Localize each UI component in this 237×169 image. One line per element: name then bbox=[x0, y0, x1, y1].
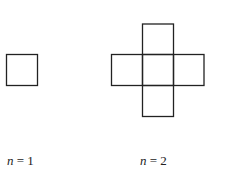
label-n2: n = 2 bbox=[140, 154, 167, 167]
diagram-canvas bbox=[0, 0, 237, 169]
square-center bbox=[143, 55, 174, 86]
label-value: 1 bbox=[27, 153, 34, 168]
square-right bbox=[174, 55, 205, 86]
label-equals: = bbox=[147, 153, 161, 168]
label-equals: = bbox=[14, 153, 28, 168]
figure-n2 bbox=[112, 24, 205, 117]
figure-n1 bbox=[7, 55, 38, 86]
label-n1: n = 1 bbox=[7, 154, 34, 167]
square-top bbox=[143, 24, 174, 55]
square-bottom bbox=[143, 86, 174, 117]
square bbox=[7, 55, 38, 86]
square-left bbox=[112, 55, 143, 86]
label-value: 2 bbox=[160, 153, 167, 168]
